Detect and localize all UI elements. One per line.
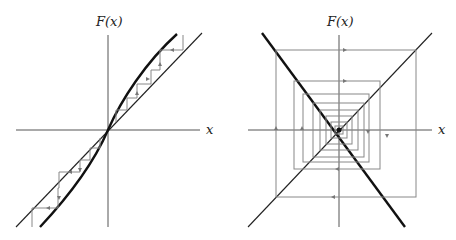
left-panel: F(x) x [16,14,214,227]
cobweb-lower [32,138,100,227]
right-panel: F(x) x [248,14,446,227]
y-axis-label: F(x) [95,14,123,29]
y-axis-label: F(x) [326,14,354,29]
cobweb-diagrams: F(x) x F(x) x [0,0,456,240]
x-axis-label: x [438,122,446,137]
fixed-point [337,128,342,133]
x-axis-label: x [206,122,214,137]
cobweb-upper [116,35,183,122]
